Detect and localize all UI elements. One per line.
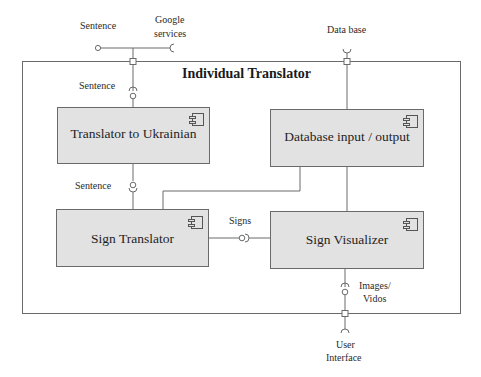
- sentence-mid-socket-icon: [129, 188, 137, 192]
- component-label: Translator to Ukrainian: [58, 126, 209, 142]
- component-label: Sign Translator: [57, 231, 208, 247]
- user-interface-socket-icon: [341, 329, 349, 333]
- label-data-base: Data base: [327, 24, 366, 36]
- component-label: Sign Visualizer: [271, 232, 423, 248]
- label-images-line2: Vidos: [363, 293, 386, 305]
- component-icon: [406, 218, 418, 231]
- label-google-services-line1: Google: [155, 14, 184, 26]
- diagram-connectors: [0, 0, 481, 377]
- database-socket-icon: [343, 49, 351, 53]
- images-ball-icon: [342, 289, 348, 295]
- port-top-right-icon: [344, 59, 350, 65]
- component-icon: [191, 216, 203, 229]
- label-images-line1: Images/: [359, 280, 391, 292]
- sentence-mid-ball-icon: [130, 182, 136, 188]
- label-sentence-external: Sentence: [80, 20, 116, 32]
- label-sentence-in: Sentence: [79, 80, 115, 92]
- sentence-ball-icon: [130, 93, 136, 99]
- component-icon: [406, 115, 418, 128]
- label-google-services-line2: services: [154, 28, 186, 40]
- label-user-interface-line1: User: [336, 339, 355, 351]
- component-sign-visualizer[interactable]: Sign Visualizer: [270, 211, 424, 269]
- component-database-io[interactable]: Database input / output: [270, 109, 424, 167]
- component-sign-translator[interactable]: Sign Translator: [56, 209, 209, 267]
- sentence-provided-interface-icon: [95, 45, 100, 50]
- port-bottom-icon: [342, 311, 348, 317]
- port-top-left-icon: [130, 59, 136, 65]
- subsystem-title: Individual Translator: [182, 66, 311, 82]
- component-label: Database input / output: [271, 129, 423, 145]
- google-services-socket-icon: [170, 44, 174, 52]
- label-signs: Signs: [229, 215, 251, 227]
- signs-ball-icon: [239, 235, 245, 241]
- label-user-interface-line2: Interface: [326, 352, 362, 364]
- label-sentence-mid: Sentence: [75, 180, 111, 192]
- signs-socket-icon: [245, 234, 249, 242]
- component-translator-to-ukrainian[interactable]: Translator to Ukrainian: [57, 107, 210, 164]
- component-icon: [192, 113, 204, 126]
